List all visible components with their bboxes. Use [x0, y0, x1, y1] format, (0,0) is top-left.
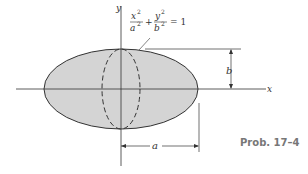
- a-arrow-left: [121, 144, 126, 148]
- eq-equals-one: = 1: [170, 17, 186, 27]
- b-label: b: [226, 65, 232, 76]
- a-arrow-right: [194, 144, 199, 148]
- b-arrow-up: [229, 49, 233, 54]
- eq-x: x: [131, 11, 136, 21]
- problem-caption: Prob. 17–4: [240, 137, 299, 148]
- eq-b-exp: 2: [161, 20, 165, 27]
- equation-leader-line: [139, 38, 150, 50]
- y-axis-label: y: [115, 3, 122, 13]
- ellipse-diagram: y x b a x 2 a 2 + y 2 b 2 = 1 Prob. 17–4: [0, 0, 308, 174]
- eq-y: y: [154, 11, 161, 21]
- x-axis-label: x: [267, 84, 272, 94]
- eq-x-exp: 2: [137, 8, 141, 15]
- eq-plus: +: [145, 17, 153, 27]
- ellipse-equation: x 2 a 2 + y 2 b 2 = 1: [130, 8, 186, 33]
- eq-a-exp: 2: [137, 20, 141, 27]
- b-arrow-down: [229, 84, 233, 89]
- eq-b: b: [154, 23, 160, 33]
- eq-a: a: [130, 23, 135, 33]
- eq-y-exp: 2: [161, 8, 165, 15]
- a-label: a: [152, 140, 158, 151]
